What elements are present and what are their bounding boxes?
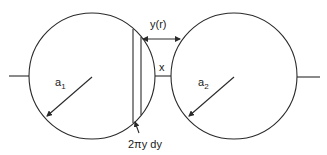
- label-gap: x: [159, 61, 165, 73]
- label-ring-area: 2πy dy: [128, 138, 162, 150]
- radius-arrow-right: [189, 77, 234, 116]
- label-radius-left: a1: [55, 76, 66, 91]
- ring-pointer-arrow: [135, 122, 139, 133]
- left-sphere: [29, 13, 155, 139]
- right-sphere: [171, 13, 297, 139]
- label-distance: y(r): [150, 18, 167, 30]
- radius-arrow-left: [47, 77, 92, 116]
- label-radius-right: a2: [198, 76, 209, 91]
- sphere-diagram: y(r) x a1 a2 2πy dy: [0, 0, 327, 155]
